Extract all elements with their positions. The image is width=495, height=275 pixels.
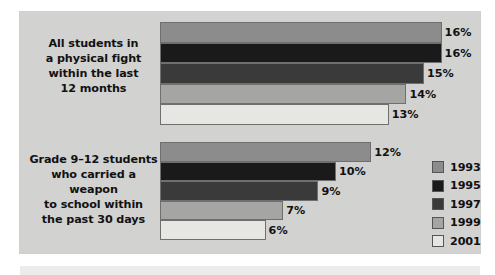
group-label-line: to school within — [26, 197, 161, 212]
legend-swatch-icon — [432, 180, 444, 192]
chart-figure-panel: All students in a physical fight within … — [20, 12, 480, 253]
bar-1999[interactable] — [160, 84, 406, 105]
bar-stack-fight: 16% 16% 15% 14% 13% — [160, 22, 480, 134]
legend-item-1993[interactable]: 1993 — [432, 158, 495, 177]
bar-value-label: 9% — [318, 184, 340, 197]
group-label-line: who carried a weapon — [26, 167, 161, 197]
chart-group-weapon: Grade 9–12 students who carried a weapon… — [20, 142, 480, 247]
legend-swatch-icon — [432, 198, 444, 210]
bar-1993[interactable] — [160, 22, 442, 43]
bar-value-label: 7% — [283, 204, 305, 217]
legend-label: 2001 — [450, 235, 481, 248]
group-label-line: All students in — [26, 36, 161, 51]
legend-swatch-icon — [432, 235, 444, 247]
bar-value-label: 13% — [389, 108, 419, 121]
chart-legend: 1993 1995 1997 1999 2001 — [432, 158, 495, 251]
bar-row: 16% — [160, 22, 480, 43]
legend-label: 1999 — [450, 216, 481, 229]
legend-swatch-icon — [432, 217, 444, 229]
group-label-line: the past 30 days — [26, 212, 161, 227]
group-label-fight: All students in a physical fight within … — [26, 36, 161, 96]
bar-1999[interactable] — [160, 201, 283, 221]
group-label-line: Grade 9–12 students — [26, 152, 161, 167]
group-label-line: a physical fight — [26, 51, 161, 66]
bar-row: 15% — [160, 63, 480, 84]
bar-2001[interactable] — [160, 220, 266, 240]
chart-group-fight: All students in a physical fight within … — [20, 22, 480, 134]
bar-row: 16% — [160, 43, 480, 64]
bar-value-label: 14% — [406, 87, 436, 100]
group-label-line: 12 months — [26, 81, 161, 96]
bar-1997[interactable] — [160, 63, 424, 84]
bar-row: 13% — [160, 104, 480, 125]
legend-swatch-icon — [432, 161, 444, 173]
legend-item-1995[interactable]: 1995 — [432, 177, 495, 196]
bar-1995[interactable] — [160, 43, 442, 64]
group-label-line: within the last — [26, 66, 161, 81]
bar-value-label: 12% — [371, 145, 401, 158]
page-bottom-strip — [20, 266, 480, 275]
bar-1997[interactable] — [160, 181, 318, 201]
legend-item-2001[interactable]: 2001 — [432, 232, 495, 251]
bar-value-label: 16% — [442, 46, 472, 59]
bar-1993[interactable] — [160, 142, 371, 162]
bar-value-label: 16% — [442, 26, 472, 39]
legend-label: 1997 — [450, 198, 481, 211]
legend-item-1997[interactable]: 1997 — [432, 195, 495, 214]
group-label-weapon: Grade 9–12 students who carried a weapon… — [26, 152, 161, 227]
bar-2001[interactable] — [160, 104, 389, 125]
bar-1995[interactable] — [160, 162, 336, 182]
legend-item-1999[interactable]: 1999 — [432, 214, 495, 233]
bar-value-label: 10% — [336, 165, 366, 178]
bar-value-label: 6% — [266, 223, 288, 236]
legend-label: 1993 — [450, 161, 481, 174]
legend-label: 1995 — [450, 179, 481, 192]
bar-row: 14% — [160, 84, 480, 105]
bar-value-label: 15% — [424, 67, 454, 80]
scanned-page: All students in a physical fight within … — [0, 0, 495, 275]
